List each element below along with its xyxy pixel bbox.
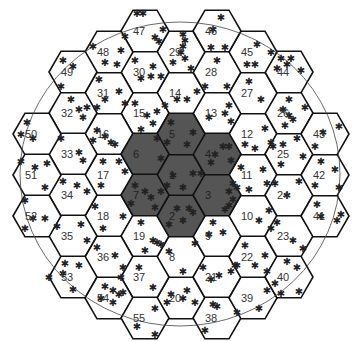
user-marker-icon: ✱ — [219, 227, 227, 238]
user-marker-icon: ✱ — [57, 81, 65, 92]
user-marker-icon: ✱ — [43, 158, 51, 169]
cell-label: 32 — [61, 107, 73, 119]
user-marker-icon: ✱ — [263, 266, 271, 277]
cell-label: 40 — [277, 271, 289, 283]
cell-label: 12 — [241, 128, 253, 140]
cell-label: 42 — [313, 169, 325, 181]
user-marker-icon: ✱ — [223, 81, 231, 92]
cell-label: 8 — [169, 251, 175, 263]
cell-label: 29 — [169, 46, 181, 58]
user-marker-icon: ✱ — [187, 63, 195, 74]
user-marker-icon: ✱ — [53, 221, 61, 232]
user-marker-icon: ✱ — [251, 143, 259, 154]
cell-label: 23 — [277, 230, 289, 242]
cell-label: 45 — [241, 46, 253, 58]
user-marker-icon: ✱ — [251, 59, 259, 70]
user-marker-icon: ✱ — [119, 211, 127, 222]
user-marker-icon: ✱ — [83, 186, 91, 197]
user-marker-icon: ✱ — [293, 133, 301, 144]
cell-label: 6 — [133, 148, 139, 160]
cell-label: 39 — [241, 292, 253, 304]
user-marker-icon: ✱ — [281, 120, 289, 131]
user-marker-icon: ✱ — [61, 258, 69, 269]
user-marker-icon: ✱ — [191, 238, 199, 249]
user-marker-icon: ✱ — [41, 213, 49, 224]
cell-label: 33 — [61, 148, 73, 160]
user-marker-icon: ✱ — [337, 209, 345, 220]
cell-label: 17 — [97, 169, 109, 181]
user-marker-icon: ✱ — [111, 139, 119, 150]
cell-label: 28 — [205, 66, 217, 78]
cell-label: 10 — [241, 210, 253, 222]
user-marker-icon: ✱ — [273, 217, 281, 228]
user-marker-icon: ✱ — [255, 215, 263, 226]
cell-label: 30 — [133, 66, 145, 78]
user-marker-icon: ✱ — [93, 102, 101, 113]
cell-label: 34 — [61, 189, 73, 201]
user-marker-icon: ✱ — [295, 286, 303, 297]
cell-label: 49 — [61, 66, 73, 78]
cell-label: 47 — [133, 25, 145, 37]
user-marker-icon: ✱ — [265, 205, 273, 216]
user-marker-icon: ✱ — [119, 287, 127, 298]
user-marker-icon: ✱ — [179, 215, 187, 226]
user-marker-icon: ✱ — [277, 288, 285, 299]
user-marker-icon: ✱ — [241, 139, 249, 150]
cell-label: 27 — [241, 87, 253, 99]
user-marker-icon: ✱ — [299, 243, 307, 254]
user-marker-icon: ✱ — [295, 176, 303, 187]
user-marker-icon: ✱ — [197, 168, 205, 179]
user-marker-icon: ✱ — [159, 24, 167, 35]
user-marker-icon: ✱ — [113, 59, 121, 70]
cell-label: 1 — [169, 169, 175, 181]
user-marker-icon: ✱ — [179, 182, 187, 193]
user-marker-icon: ✱ — [121, 166, 129, 177]
user-marker-icon: ✱ — [183, 139, 191, 150]
user-marker-icon: ✱ — [21, 195, 29, 206]
cell-label: 20 — [169, 292, 181, 304]
cell-label: 53 — [61, 271, 73, 283]
user-marker-icon: ✱ — [253, 39, 261, 50]
cell-label: 26 — [277, 107, 289, 119]
user-marker-icon: ✱ — [21, 223, 29, 234]
user-marker-icon: ✱ — [121, 98, 129, 109]
cell-label: 3 — [205, 189, 211, 201]
user-marker-icon: ✱ — [157, 186, 165, 197]
user-marker-icon: ✱ — [41, 182, 49, 193]
user-marker-icon: ✱ — [79, 112, 87, 123]
cell-label: 19 — [133, 230, 145, 242]
user-marker-icon: ✱ — [45, 272, 53, 283]
cell-label: 46 — [205, 25, 217, 37]
cell-label: 4 — [205, 148, 211, 160]
user-marker-icon: ✱ — [137, 124, 145, 135]
cell-label: 51 — [25, 169, 37, 181]
user-marker-icon: ✱ — [241, 240, 249, 251]
user-marker-icon: ✱ — [161, 100, 169, 111]
user-marker-icon: ✱ — [201, 81, 209, 92]
cell-label: 2 — [169, 210, 175, 222]
user-marker-icon: ✱ — [311, 180, 319, 191]
user-marker-icon: ✱ — [221, 204, 229, 215]
user-marker-icon: ✱ — [99, 223, 107, 234]
user-marker-icon: ✱ — [151, 329, 159, 340]
cell-label: 22 — [241, 251, 253, 263]
user-marker-icon: ✱ — [157, 239, 165, 250]
user-marker-icon: ✱ — [269, 141, 277, 152]
user-marker-icon: ✱ — [277, 159, 285, 170]
diagram-canvas: ✱✱✱✱✱✱✱✱✱✱✱✱✱✱✱✱✱✱✱✱✱✱✱✱✱✱✱✱✱✱✱✱✱✱✱✱✱✱✱✱… — [0, 0, 359, 341]
cell-label: 9 — [205, 230, 211, 242]
user-marker-icon: ✱ — [73, 180, 81, 191]
user-marker-icon: ✱ — [227, 116, 235, 127]
cell-label: 24 — [277, 189, 289, 201]
user-marker-icon: ✱ — [101, 57, 109, 68]
user-marker-icon: ✱ — [225, 100, 233, 111]
cell-label: 5 — [169, 128, 175, 140]
user-marker-icon: ✱ — [183, 94, 191, 105]
user-marker-icon: ✱ — [89, 135, 97, 146]
user-marker-icon: ✱ — [57, 133, 65, 144]
user-marker-icon: ✱ — [317, 156, 325, 167]
user-marker-icon: ✱ — [313, 199, 321, 210]
user-marker-icon: ✱ — [131, 55, 139, 66]
user-marker-icon: ✱ — [149, 282, 157, 293]
user-marker-icon: ✱ — [335, 182, 343, 193]
